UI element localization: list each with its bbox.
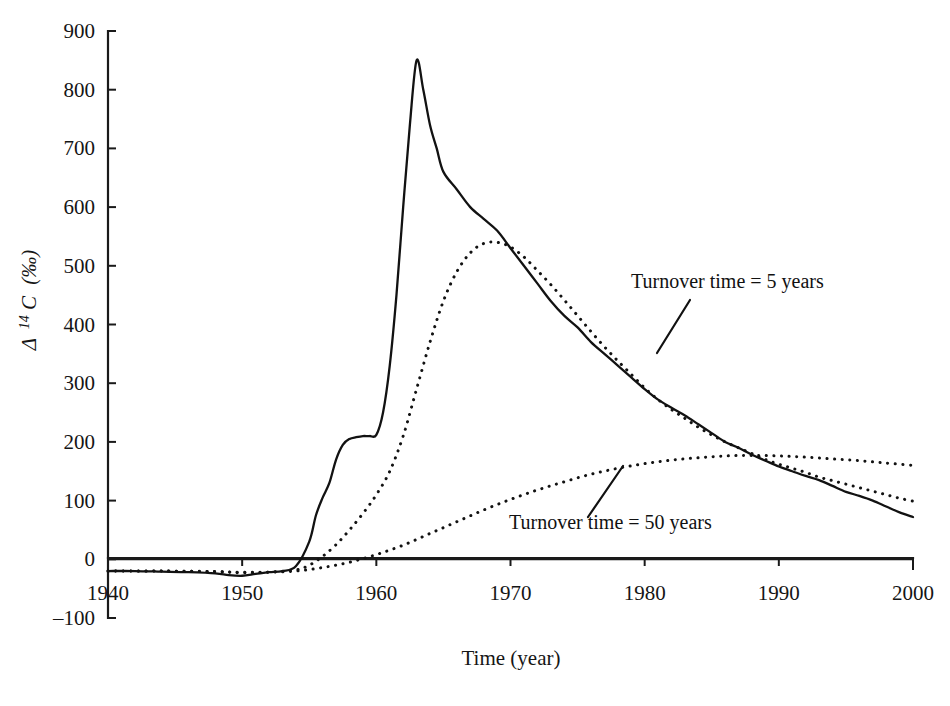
y-axis-title: Δ 14 C (‰) bbox=[10, 250, 41, 352]
series-curve-0 bbox=[108, 59, 913, 575]
annotation-leader-0 bbox=[657, 300, 690, 353]
y-axis-ticks bbox=[108, 31, 116, 618]
y-tick-label-200: 200 bbox=[64, 430, 96, 454]
y-axis-group: –1000100200300400500600700800900 bbox=[52, 19, 116, 630]
y-axis-title-delta: Δ bbox=[17, 338, 41, 351]
x-tick-label-1940: 1940 bbox=[87, 581, 129, 605]
x-tick-label-2000: 2000 bbox=[892, 581, 934, 605]
y-tick-label-100: 100 bbox=[64, 489, 96, 513]
x-tick-label-1970: 1970 bbox=[490, 581, 532, 605]
annotation-label-1: Turnover time = 50 years bbox=[509, 511, 712, 534]
y-tick-label-500: 500 bbox=[64, 254, 96, 278]
y-tick-label-800: 800 bbox=[64, 78, 96, 102]
y-tick-label--100: –100 bbox=[52, 606, 95, 630]
x-axis-title: Time (year) bbox=[462, 646, 561, 670]
data-series-group bbox=[108, 59, 913, 575]
x-tick-label-1960: 1960 bbox=[355, 581, 397, 605]
y-tick-label-900: 900 bbox=[64, 19, 96, 43]
x-tick-label-1980: 1980 bbox=[624, 581, 666, 605]
delta14c-line-chart: –1000100200300400500600700800900 1940195… bbox=[0, 0, 950, 706]
y-axis-tick-labels: –1000100200300400500600700800900 bbox=[52, 19, 95, 630]
y-tick-label-300: 300 bbox=[64, 371, 96, 395]
y-tick-label-600: 600 bbox=[64, 195, 96, 219]
y-axis-title-element: C bbox=[17, 295, 41, 310]
x-tick-label-1990: 1990 bbox=[758, 581, 800, 605]
y-tick-label-400: 400 bbox=[64, 313, 96, 337]
chart-annotations: Turnover time = 5 yearsTurnover time = 5… bbox=[509, 270, 824, 534]
x-axis-group: 1940195019601970198019902000 bbox=[87, 558, 934, 605]
y-tick-label-700: 700 bbox=[64, 136, 96, 160]
y-axis-title-units: (‰) bbox=[17, 250, 41, 285]
svg-text:Δ 14 C: Δ 14 C (‰) bbox=[10, 250, 41, 352]
y-axis-title-superscript: 14 bbox=[17, 315, 32, 329]
annotation-label-0: Turnover time = 5 years bbox=[631, 270, 824, 293]
x-tick-label-1950: 1950 bbox=[221, 581, 263, 605]
x-axis-tick-labels: 1940195019601970198019902000 bbox=[87, 581, 934, 605]
y-tick-label-0: 0 bbox=[85, 547, 96, 571]
chart-figure: –1000100200300400500600700800900 1940195… bbox=[0, 0, 950, 706]
